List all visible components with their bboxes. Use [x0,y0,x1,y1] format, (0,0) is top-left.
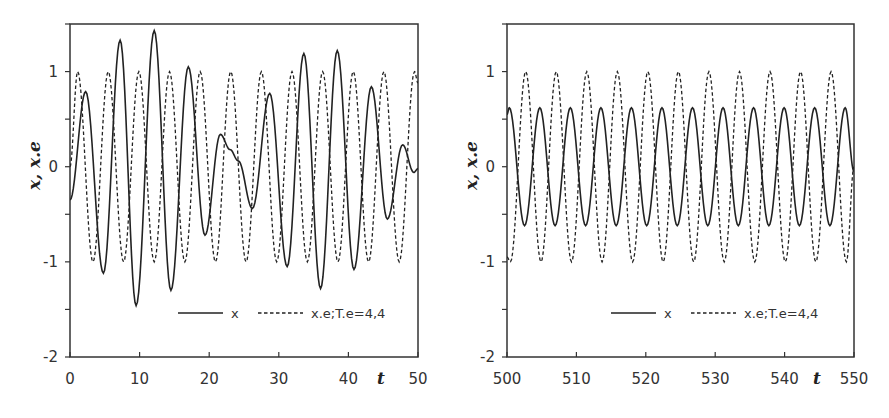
x-tick-label: 30 [269,370,288,388]
legend-label-xe: x.e;T.e=4,4 [311,306,385,321]
y-axis-title: x, x.e [24,141,44,191]
y-tick-label: 0 [48,158,58,176]
x-tick-label: 510 [562,370,591,388]
series-xe-line [70,72,418,262]
legend-label-xe: x.e;T.e=4,4 [744,306,818,321]
x-tick-label: 550 [840,370,869,388]
x-tick-label: 520 [631,370,660,388]
y-tick-label: -1 [43,253,58,271]
x-tick-label: 50 [408,370,427,388]
x-axis-title: t [377,368,385,388]
series-xe-line [507,72,854,262]
y-tick-label: 1 [485,63,495,81]
left-chart-panel: -2-10101020304050tx, x.exx.e;T.e=4,4 [0,0,444,418]
right-chart-panel: -2-101500510520530540550tx, x.exx.e;T.e=… [437,0,881,418]
x-tick-label: 10 [130,370,149,388]
legend-label-x: x [231,306,239,321]
y-axis-title: x, x.e [461,141,481,191]
y-tick-label: 0 [485,158,495,176]
x-tick-label: 40 [339,370,358,388]
legend-label-x: x [664,306,672,321]
series-x-line [70,31,418,306]
legend: xx.e;T.e=4,4 [178,306,385,321]
x-tick-label: 0 [65,370,75,388]
x-tick-label: 530 [701,370,730,388]
y-tick-label: -2 [43,348,58,366]
x-axis-title: t [813,368,821,388]
series-x-line [507,108,854,226]
left-chart: -2-10101020304050tx, x.exx.e;T.e=4,4 [0,0,444,418]
legend: xx.e;T.e=4,4 [611,306,818,321]
y-tick-label: -2 [480,348,495,366]
x-tick-label: 20 [200,370,219,388]
y-tick-label: -1 [480,253,495,271]
x-tick-label: 500 [493,370,522,388]
y-tick-label: 1 [48,63,58,81]
right-chart: -2-101500510520530540550tx, x.exx.e;T.e=… [437,0,889,418]
x-tick-label: 540 [770,370,799,388]
